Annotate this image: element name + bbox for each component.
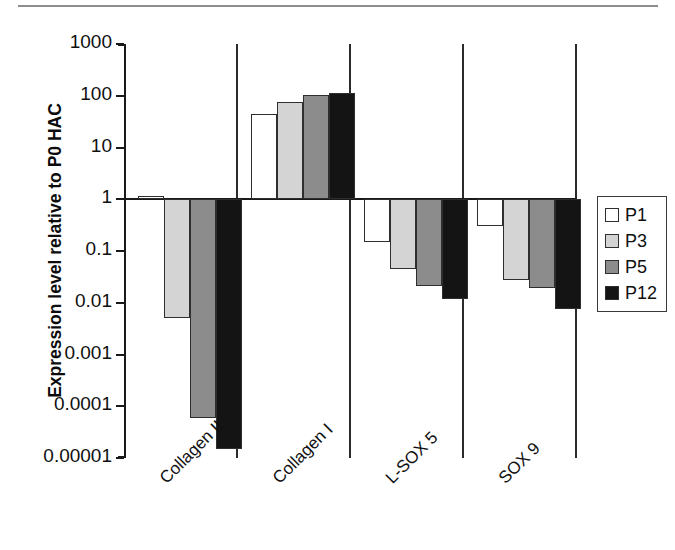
y-tick-label: 100 (80, 83, 112, 105)
legend-label: P1 (625, 206, 647, 224)
legend-label: P5 (625, 258, 647, 276)
y-tick-label: 0.0001 (54, 393, 112, 415)
x-label-collagen-i: Collagen I (269, 420, 337, 488)
x-label-sox-9: SOX 9 (495, 439, 545, 489)
bar-collagen-ii-p5 (190, 199, 216, 417)
legend-swatch-icon (605, 208, 619, 222)
top-horizontal-rule (18, 5, 658, 7)
y-tick-label: 10 (91, 135, 112, 157)
bar-sox-9-p5 (529, 199, 555, 288)
bar-l-sox-5-p1 (364, 199, 390, 242)
legend-label: P12 (625, 284, 657, 302)
y-tick-label: 0.001 (64, 342, 112, 364)
legend-swatch-icon (605, 234, 619, 248)
legend-swatch-icon (605, 286, 619, 300)
bar-sox-9-p12 (555, 199, 581, 309)
bar-collagen-i-p3 (277, 102, 303, 199)
bar-collagen-i-p5 (303, 95, 329, 200)
bar-l-sox-5-p12 (442, 199, 468, 298)
y-tick-mark (116, 95, 124, 97)
legend-item-p5[interactable]: P5 (605, 256, 660, 278)
y-tick-label: 1000 (70, 31, 112, 53)
y-tick-mark (116, 354, 124, 356)
y-tick-mark (116, 250, 124, 252)
y-tick-label: 0.1 (86, 238, 112, 260)
legend-swatch-icon (605, 260, 619, 274)
y-tick-mark (116, 43, 124, 45)
bar-collagen-i-p1 (251, 114, 277, 200)
legend-item-p3[interactable]: P3 (605, 230, 660, 252)
legend-label: P3 (625, 232, 647, 250)
y-tick-mark (116, 147, 124, 149)
legend-item-p12[interactable]: P12 (605, 282, 660, 304)
bar-collagen-ii-p3 (164, 199, 190, 318)
bar-collagen-ii-p1 (138, 196, 164, 199)
y-tick-mark (116, 457, 124, 459)
x-label-l-sox-5: L-SOX 5 (382, 428, 442, 488)
y-tick-mark (116, 405, 124, 407)
legend-item-p1[interactable]: P1 (605, 204, 660, 226)
y-axis-title: Expression level relative to P0 HAC (45, 86, 66, 416)
bar-l-sox-5-p3 (390, 199, 416, 269)
y-tick-mark (116, 198, 124, 200)
bar-sox-9-p1 (477, 199, 503, 226)
y-tick-label: 0.01 (75, 290, 112, 312)
y-axis-line (124, 44, 126, 458)
bar-collagen-ii-p12 (216, 199, 242, 449)
y-tick-mark (116, 302, 124, 304)
y-tick-label: 0.00001 (43, 445, 112, 467)
bar-sox-9-p3 (503, 199, 529, 280)
x-label-collagen-ii: Collagen II (156, 417, 228, 489)
bar-collagen-i-p12 (329, 93, 355, 199)
legend: P1P3P5P12 (597, 196, 667, 312)
y-tick-label: 1 (101, 186, 112, 208)
figure-root: Expression level relative to P0 HAC 1000… (0, 0, 675, 550)
bar-l-sox-5-p5 (416, 199, 442, 286)
